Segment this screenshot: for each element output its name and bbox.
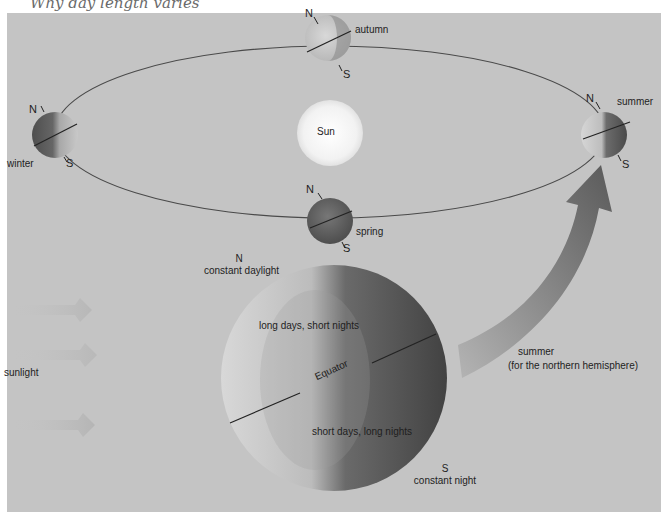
north-pole-label: N constant daylight <box>204 253 274 276</box>
summer-south-label: S <box>622 158 629 170</box>
winter-label: winter <box>7 158 34 170</box>
south-note: constant night <box>410 475 480 487</box>
spring-north-label: N <box>306 183 314 195</box>
summer-label: summer <box>617 96 653 108</box>
globe-winter <box>32 106 78 162</box>
autumn-north-label: N <box>305 7 313 19</box>
spring-label: spring <box>356 226 383 238</box>
large-globe <box>221 265 447 491</box>
spring-south-label: S <box>343 242 350 254</box>
winter-south-label: S <box>66 157 73 169</box>
globe-spring <box>307 193 353 248</box>
sunlight-label: sunlight <box>4 367 38 379</box>
arrow-caption-line2: (for the northern hemisphere) <box>508 360 638 372</box>
arrow-caption: summer (for the northern hemisphere) <box>518 346 638 371</box>
winter-north-label: N <box>29 103 37 115</box>
north-note: constant daylight <box>204 265 274 277</box>
autumn-south-label: S <box>343 68 350 80</box>
south-pole-label: S constant night <box>410 463 480 486</box>
south-letter: S <box>410 463 480 475</box>
upper-note: long days, short nights <box>259 320 359 332</box>
north-letter: N <box>204 253 274 265</box>
summer-north-label: N <box>586 92 594 104</box>
sun-label: Sun <box>317 126 335 138</box>
arrow-caption-line1: summer <box>518 346 638 358</box>
lower-note: short days, long nights <box>312 426 412 438</box>
autumn-label: autumn <box>355 24 388 36</box>
globe-summer <box>581 102 630 161</box>
diagram-canvas <box>0 0 661 517</box>
globe-autumn <box>305 15 351 71</box>
